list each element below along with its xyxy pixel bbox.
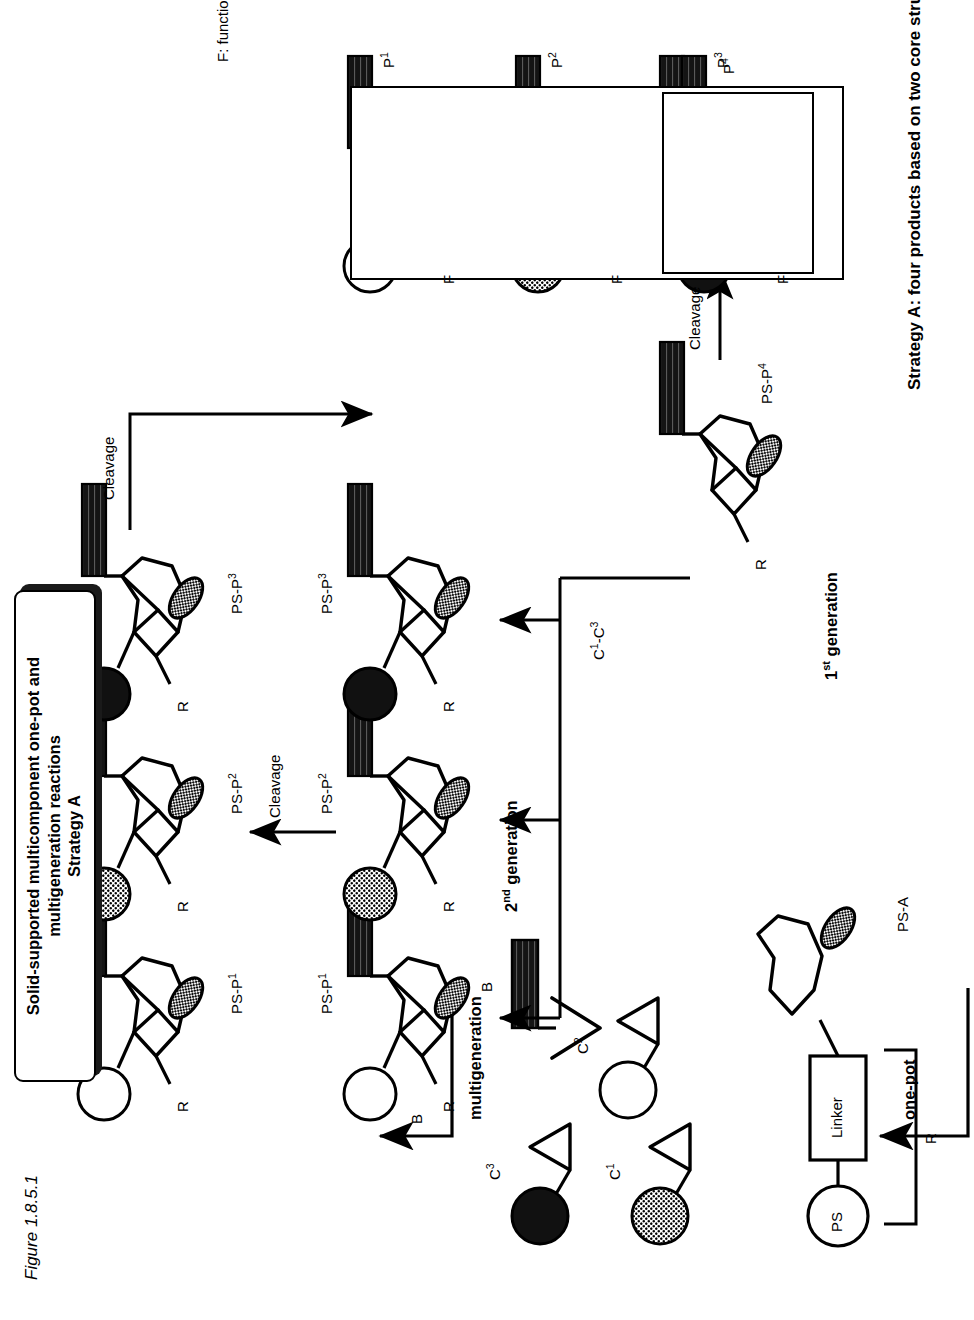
reagent-b-label: B: [478, 982, 495, 992]
functional-group-legend: F: functional group: [214, 0, 231, 62]
figure-title-line2: Strategy A: [64, 602, 85, 1070]
gen2-ordinal: nd: [500, 889, 512, 902]
component-c2-label: C2: [572, 1037, 591, 1054]
top-ps-p2-text: PS-P: [228, 779, 245, 814]
components-range-sup2: 3: [588, 622, 600, 628]
r-substituent-row1c: R: [174, 701, 191, 712]
components-range-c: C: [590, 649, 607, 660]
top-ps-p3-label: PS-P3: [226, 573, 245, 614]
component-c1-letter: C: [606, 1169, 623, 1180]
gen1-number: 1: [822, 671, 840, 680]
top-ps-p1-label: PS-P1: [226, 973, 245, 1014]
component-c2-letter: C: [574, 1043, 591, 1054]
one-pot-label: one-pot: [900, 1060, 919, 1120]
gen2-ps-p2-label: PS-P2: [316, 773, 335, 814]
product-p2-text: P: [548, 58, 565, 68]
ps-a-label: PS-A: [894, 897, 911, 932]
gen1-word: generation: [822, 572, 840, 661]
product-p1-text: P: [380, 58, 397, 68]
gen2-ps-p2-sup: 2: [316, 773, 328, 779]
component-c2-sup: 2: [572, 1037, 584, 1043]
ps-p4-label: PS-P4: [756, 363, 775, 404]
gen2-ps-p2-text: PS-P: [318, 779, 335, 814]
f-substituent-p2: F: [608, 275, 625, 284]
p4-sup: 4: [718, 58, 730, 64]
multigeneration-arrow-b-label: B: [408, 1114, 425, 1124]
f-substituent-p3: F: [774, 275, 791, 284]
component-c3-letter: C: [486, 1169, 503, 1180]
cleavage-label-middle: Cleavage: [266, 755, 283, 818]
ps-label: PS: [828, 1212, 845, 1232]
rotated-figure-wrapper: Figure 1.8.5.1 Solid-supported multicomp…: [0, 0, 974, 1320]
component-c1-label: C1: [604, 1163, 623, 1180]
components-range-dash: -C: [590, 627, 607, 643]
r-substituent-top2: R: [440, 901, 457, 912]
product-p2-label: P2: [546, 52, 565, 68]
strategy-caption: Strategy A: four products based on two c…: [905, 0, 925, 390]
second-generation-label: 2nd generation: [500, 800, 521, 912]
p4-label: P4: [718, 58, 737, 74]
top-ps-p3-sup: 3: [226, 573, 238, 579]
top-ps-p1-text: PS-P: [228, 979, 245, 1014]
cleavage-label-top: Cleavage: [100, 437, 117, 500]
gen2-number: 2: [502, 903, 520, 912]
gen2-ps-p3-text: PS-P: [318, 579, 335, 614]
r-bracket-label: R: [922, 1133, 939, 1144]
top-ps-p2-label: PS-P2: [226, 773, 245, 814]
component-c3-sup: 3: [484, 1163, 496, 1169]
gen1-ordinal: st: [820, 661, 832, 671]
figure-caption: Figure 1.8.5.1: [22, 1175, 42, 1280]
r-substituent-top3: R: [440, 701, 457, 712]
figure-canvas: Figure 1.8.5.1 Solid-supported multicomp…: [0, 0, 974, 1320]
p4-text: P: [720, 64, 737, 74]
components-range-sup1: 1: [588, 643, 600, 649]
f-substituent-p1: F: [440, 275, 457, 284]
components-range-label: C1-C3: [588, 622, 607, 660]
gen2-ps-p1-sup: 1: [316, 973, 328, 979]
gen2-ps-p1-text: PS-P: [318, 979, 335, 1014]
ps-p4-text: PS-P: [758, 369, 775, 404]
gen2-ps-p3-label: PS-P3: [316, 573, 335, 614]
figure-title-box: Solid-supported multicomponent one-pot a…: [14, 590, 96, 1082]
top-ps-p3-text: PS-P: [228, 579, 245, 614]
r-substituent-row1b: R: [174, 901, 191, 912]
p4-product-box: [662, 92, 814, 274]
component-c1-sup: 1: [604, 1163, 616, 1169]
figure-title-line1: Solid-supported multicomponent one-pot a…: [23, 602, 64, 1070]
multigeneration-label: multigeneration: [466, 996, 485, 1120]
r-substituent-gen1: R: [752, 559, 769, 570]
product-p2-sup: 2: [546, 52, 558, 58]
top-ps-p1-sup: 1: [226, 973, 238, 979]
gen2-ps-p1-label: PS-P1: [316, 973, 335, 1014]
gen2-ps-p3-sup: 3: [316, 573, 328, 579]
ps-p4-sup: 4: [756, 363, 768, 369]
cleavage-label-bottom: Cleavage: [686, 287, 703, 350]
product-p1-sup: 1: [378, 52, 390, 58]
r-substituent-top1: R: [440, 1101, 457, 1112]
component-c3-label: C3: [484, 1163, 503, 1180]
figure-page: Figure 1.8.5.1 Solid-supported multicomp…: [0, 0, 974, 1320]
gen2-word: generation: [502, 800, 520, 889]
r-substituent-row1a: R: [174, 1101, 191, 1112]
product-p1-label: P1: [378, 52, 397, 68]
linker-label: Linker: [828, 1097, 845, 1138]
top-ps-p2-sup: 2: [226, 773, 238, 779]
first-generation-label: 1st generation: [820, 572, 841, 680]
